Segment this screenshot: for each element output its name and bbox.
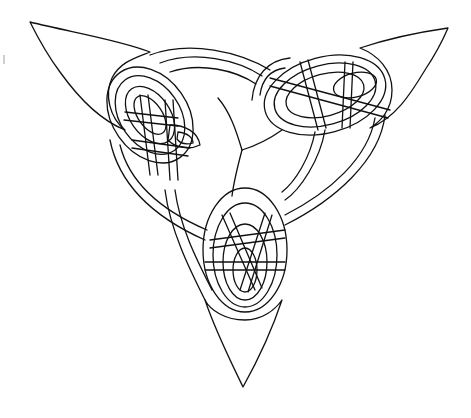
bottom-lobe	[203, 188, 287, 312]
celtic-knot-drawing	[0, 0, 471, 418]
center-hub	[218, 98, 282, 196]
right-lobe	[252, 42, 395, 148]
left-lobe	[89, 51, 211, 180]
